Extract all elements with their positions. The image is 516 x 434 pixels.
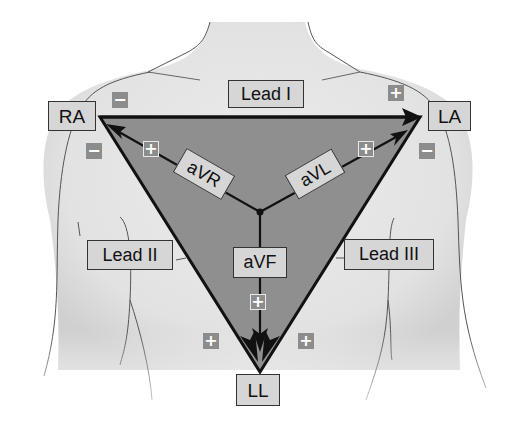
ll-lead-iii-plus-icon: +: [298, 333, 314, 349]
la-lead-iii-minus-icon: −: [419, 143, 435, 159]
electrode-ll-label: LL: [236, 374, 280, 406]
la-lead-i-plus-icon: +: [388, 85, 404, 101]
electrode-la-label: LA: [428, 101, 471, 131]
avr-plus-icon: +: [143, 141, 159, 157]
lead-iii-label: Lead III: [344, 239, 434, 270]
einthoven-triangle-diagram: RA LA LL Lead I Lead II Lead III aVR aVL…: [0, 0, 516, 434]
avf-plus-icon: +: [250, 294, 266, 310]
ra-lead-ii-minus-icon: −: [86, 143, 102, 159]
avl-plus-icon: +: [358, 141, 374, 157]
avf-label: aVF: [233, 247, 287, 278]
body-torso-illustration: [0, 0, 516, 434]
heart-center-point: [257, 209, 264, 216]
lead-ii-label: Lead II: [87, 240, 173, 270]
ra-lead-i-minus-icon: −: [112, 92, 128, 108]
lead-i-label: Lead I: [228, 80, 304, 108]
ll-lead-ii-plus-icon: +: [203, 333, 219, 349]
electrode-ra-label: RA: [48, 101, 96, 131]
